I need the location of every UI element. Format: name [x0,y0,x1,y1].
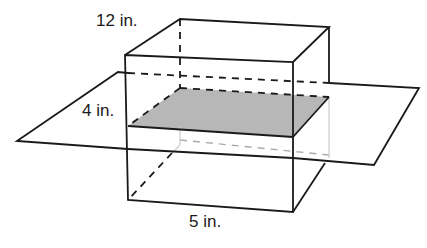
hidden-bottom-left-diagonal [128,153,172,200]
label-section-height-4in: 4 in. [82,102,114,119]
box-bottom-right-diagonal [293,163,325,212]
label-height-12in: 12 in. [96,12,138,29]
label-width-5in: 5 in. [189,213,221,230]
plane-front-edge-mid [128,149,293,158]
hidden-plane-back-edge [128,73,329,83]
prism-diagram [0,0,427,248]
